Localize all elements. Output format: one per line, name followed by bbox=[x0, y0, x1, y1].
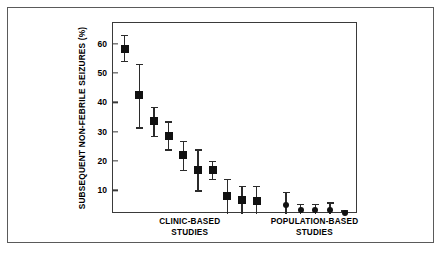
error-bar-cap-top-11 bbox=[283, 192, 290, 193]
error-bar-cap-top-2 bbox=[136, 64, 143, 65]
y-tick-mark-40 bbox=[113, 102, 118, 103]
y-tick-mark-10 bbox=[113, 190, 118, 191]
y-axis-title-text: SUBSEQUENT NON-FEBRILE SEIZURES (%) bbox=[77, 27, 87, 210]
error-bar-cap-top-3 bbox=[151, 107, 158, 108]
marker-11 bbox=[283, 202, 289, 208]
x-group-label-population-based-line2: STUDIES bbox=[254, 228, 374, 239]
y-tick-mark-50 bbox=[113, 72, 118, 73]
marker-3 bbox=[150, 117, 158, 125]
marker-1 bbox=[121, 45, 129, 53]
marker-9 bbox=[238, 196, 246, 204]
error-bar-cap-bottom-3 bbox=[151, 136, 158, 137]
marker-10 bbox=[253, 197, 261, 205]
error-bar-cap-bottom-1 bbox=[121, 61, 128, 62]
error-bar-cap-top-10 bbox=[253, 186, 260, 187]
marker-2 bbox=[135, 91, 143, 99]
y-tick-label-20: 20 bbox=[98, 156, 107, 166]
y-tick-mark-30 bbox=[113, 131, 118, 132]
x-group-label-clinic-based-line2: STUDIES bbox=[130, 228, 250, 239]
marker-5 bbox=[179, 151, 187, 159]
y-tick-label-30: 30 bbox=[98, 127, 107, 137]
x-group-label-clinic-based: CLINIC-BASED STUDIES bbox=[130, 217, 250, 238]
error-bar-cap-top-12 bbox=[297, 204, 304, 205]
error-bar-cap-top-4 bbox=[165, 121, 172, 122]
marker-4 bbox=[165, 132, 173, 140]
x-group-label-population-based-line1: POPULATION-BASED bbox=[254, 217, 374, 228]
error-bar-cap-bottom-4 bbox=[165, 149, 172, 150]
error-bar-cap-top-8 bbox=[224, 179, 231, 180]
error-bar-cap-bottom-5 bbox=[180, 170, 187, 171]
y-tick-label-60: 60 bbox=[98, 39, 107, 49]
x-group-label-population-based: POPULATION-BASED STUDIES bbox=[254, 217, 374, 238]
y-axis-title: SUBSEQUENT NON-FEBRILE SEIZURES (%) bbox=[74, 20, 90, 216]
error-bar-cap-top-7 bbox=[209, 161, 216, 162]
y-tick-label-50: 50 bbox=[98, 68, 107, 78]
marker-13 bbox=[312, 207, 318, 213]
error-bar-cap-top-5 bbox=[180, 141, 187, 142]
y-tick-mark-60 bbox=[113, 43, 118, 44]
error-bar-cap-top-14 bbox=[327, 202, 334, 203]
marker-6 bbox=[194, 166, 202, 174]
error-bar-cap-bottom-6 bbox=[195, 190, 202, 191]
plot-area: 102030405060 bbox=[112, 22, 357, 213]
error-bar-cap-top-9 bbox=[239, 186, 246, 187]
marker-7 bbox=[209, 166, 217, 174]
figure-root: SUBSEQUENT NON-FEBRILE SEIZURES (%) 1020… bbox=[0, 0, 443, 258]
x-group-label-clinic-based-line1: CLINIC-BASED bbox=[130, 217, 250, 228]
y-tick-label-10: 10 bbox=[98, 185, 107, 195]
error-bar-cap-top-13 bbox=[312, 204, 319, 205]
y-tick-mark-20 bbox=[113, 160, 118, 161]
error-bar-cap-top-6 bbox=[195, 149, 202, 150]
marker-12 bbox=[298, 207, 304, 213]
marker-14 bbox=[327, 207, 333, 213]
error-bar-cap-bottom-2 bbox=[136, 127, 143, 128]
error-bar-cap-bottom-7 bbox=[209, 179, 216, 180]
error-bar-cap-top-1 bbox=[121, 35, 128, 36]
marker-15 bbox=[342, 210, 348, 216]
marker-8 bbox=[223, 192, 231, 200]
y-tick-label-40: 40 bbox=[98, 97, 107, 107]
